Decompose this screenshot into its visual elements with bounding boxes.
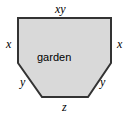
side-label-bottom: z <box>62 101 67 113</box>
interior-label-garden: garden <box>37 52 71 63</box>
side-label-lower-left: y <box>20 76 25 88</box>
side-label-lower-right: y <box>100 76 105 88</box>
side-label-right: x <box>117 38 122 50</box>
garden-polygon-figure: xy x x y y z garden <box>0 0 128 118</box>
side-label-top: xy <box>55 3 66 15</box>
side-label-left: x <box>6 38 11 50</box>
